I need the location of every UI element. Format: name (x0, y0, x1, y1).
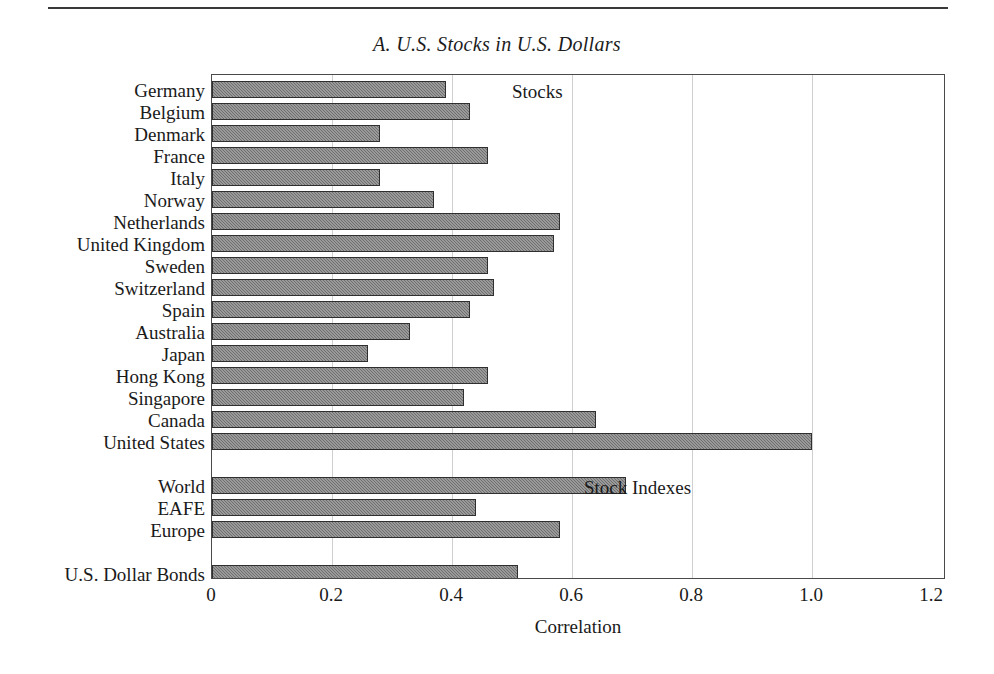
category-label-axis: GermanyBelgiumDenmarkFranceItalyNorwayNe… (0, 74, 211, 579)
bar (212, 411, 596, 428)
category-label: Denmark (1, 125, 211, 144)
category-label: Sweden (1, 257, 211, 276)
category-label: Italy (1, 169, 211, 188)
bar (212, 125, 380, 142)
category-label: Europe (1, 521, 211, 540)
bar (212, 235, 554, 252)
bar (212, 389, 464, 406)
bar (212, 81, 446, 98)
plot-inner: StocksStock Indexes (212, 75, 944, 578)
category-label: World (1, 477, 211, 496)
gridline (692, 75, 693, 578)
x-tick-label: 1.2 (919, 584, 943, 606)
figure-page: A. U.S. Stocks in U.S. Dollars GermanyBe… (0, 0, 994, 674)
bar (212, 279, 494, 296)
bar (212, 433, 812, 450)
x-axis-label: Correlation (211, 616, 945, 638)
group-annotation-stocks: Stocks (512, 81, 563, 103)
bar (212, 345, 368, 362)
bar (212, 521, 560, 538)
category-label: EAFE (1, 499, 211, 518)
gridline (812, 75, 813, 578)
x-tick-label: 0.4 (439, 584, 463, 606)
bar (212, 323, 410, 340)
x-tick-label: 0.2 (319, 584, 343, 606)
x-axis-ticks: 00.20.40.60.81.01.2 (0, 584, 994, 614)
group-annotation-indexes: Stock Indexes (584, 477, 691, 499)
category-label: U.S. Dollar Bonds (1, 565, 211, 584)
bar (212, 191, 434, 208)
category-label: Belgium (1, 103, 211, 122)
bar (212, 147, 488, 164)
category-label: United States (1, 433, 211, 452)
category-label: Australia (1, 323, 211, 342)
category-label: Singapore (1, 389, 211, 408)
plot-area: StocksStock Indexes (211, 74, 945, 579)
category-label: United Kingdom (1, 235, 211, 254)
bar (212, 103, 470, 120)
category-label: Netherlands (1, 213, 211, 232)
category-label: Norway (1, 191, 211, 210)
category-label: Switzerland (1, 279, 211, 298)
category-label: Hong Kong (1, 367, 211, 386)
bar (212, 499, 476, 516)
bar (212, 169, 380, 186)
bar (212, 213, 560, 230)
page-top-rule (48, 7, 948, 9)
category-label: Japan (1, 345, 211, 364)
x-tick-label: 1.0 (799, 584, 823, 606)
category-label: Canada (1, 411, 211, 430)
bar (212, 477, 626, 494)
x-tick-label: 0.8 (679, 584, 703, 606)
gridline (572, 75, 573, 578)
bar (212, 367, 488, 384)
bar (212, 301, 470, 318)
x-tick-label: 0.6 (559, 584, 583, 606)
figure-title: A. U.S. Stocks in U.S. Dollars (0, 33, 994, 56)
category-label: France (1, 147, 211, 166)
x-tick-label: 0 (206, 584, 216, 606)
category-label: Spain (1, 301, 211, 320)
category-label: Germany (1, 81, 211, 100)
bar (212, 565, 518, 578)
bar (212, 257, 488, 274)
